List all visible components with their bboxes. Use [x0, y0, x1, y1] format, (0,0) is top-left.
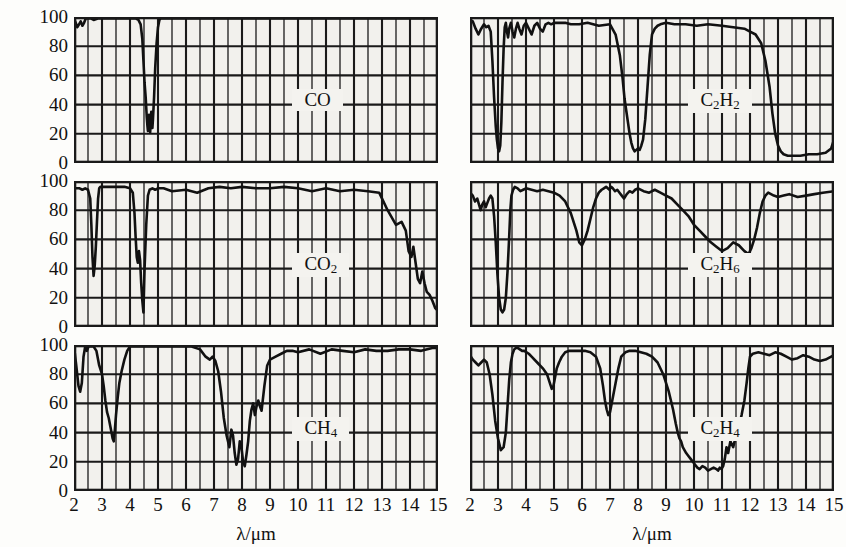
spectrum-plot-ch4 [74, 345, 438, 491]
x-tick-label: 15 [814, 495, 846, 514]
plot-panel-c2h4 [470, 345, 834, 491]
y-tick-label: 80 [2, 364, 68, 383]
x-axis-title: λ/μm [470, 523, 834, 545]
species-label-c2h6: C2H6 [688, 253, 751, 277]
transmittance-spectra-figure: CO100806040200透射率/100CO2100806040200透射率/… [0, 0, 846, 547]
y-tick-label: 60 [2, 229, 68, 248]
species-label-c2h2: C2H2 [688, 89, 751, 113]
y-tick-label: 40 [2, 259, 68, 278]
plot-panel-ch4 [74, 345, 438, 491]
y-tick-label: 80 [2, 36, 68, 55]
plot-panel-co2 [74, 181, 438, 327]
y-tick-label: 20 [2, 288, 68, 307]
y-tick-label: 100 [2, 171, 68, 190]
species-label-co: CO [292, 89, 342, 112]
y-tick-label: 80 [2, 200, 68, 219]
plot-panel-c2h6 [470, 181, 834, 327]
species-label-co2: CO2 [292, 253, 349, 277]
y-tick-label: 60 [2, 393, 68, 412]
y-tick-label: 40 [2, 95, 68, 114]
y-tick-label: 100 [2, 335, 68, 354]
y-tick-label: 60 [2, 65, 68, 84]
y-tick-label: 20 [2, 124, 68, 143]
spectrum-plot-c2h4 [470, 345, 834, 491]
y-tick-label: 100 [2, 7, 68, 26]
species-label-c2h4: C2H4 [688, 417, 751, 441]
x-axis-title: λ/μm [74, 523, 438, 545]
plot-panel-c2h2 [470, 17, 834, 163]
spectrum-plot-co2 [74, 181, 438, 327]
plot-panel-co [74, 17, 438, 163]
spectrum-plot-c2h2 [470, 17, 834, 163]
spectrum-plot-c2h6 [470, 181, 834, 327]
species-label-ch4: CH4 [292, 417, 349, 441]
y-tick-label: 40 [2, 423, 68, 442]
y-tick-label: 20 [2, 452, 68, 471]
spectrum-plot-co [74, 17, 438, 163]
